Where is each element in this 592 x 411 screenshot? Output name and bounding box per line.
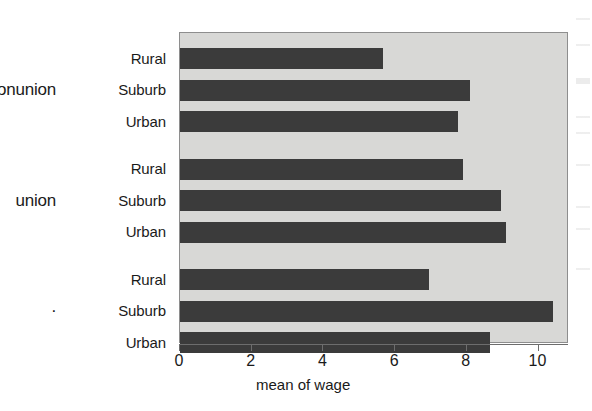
bar [180, 269, 429, 290]
bar [180, 159, 463, 180]
x-tick-mark [466, 344, 467, 351]
x-tick-mark [322, 344, 323, 351]
y-tick-label: Urban [0, 335, 174, 350]
y-axis-labels: RuralSuburbUrbannonunionRuralSuburbUrban… [0, 32, 174, 343]
y-tick-label: Urban [0, 114, 174, 129]
y-tick-label: Rural [0, 51, 174, 66]
group-label: union [15, 192, 56, 209]
x-tick-label: 6 [390, 353, 399, 369]
bar [180, 222, 506, 243]
y-tick-label: Rural [0, 272, 174, 287]
plot-panel [179, 32, 568, 343]
x-tick-label: 4 [318, 353, 327, 369]
x-tick-label: 8 [461, 353, 470, 369]
y-tick-label: Urban [0, 224, 174, 239]
x-tick-label: 0 [175, 353, 184, 369]
y-tick-label: Rural [0, 161, 174, 176]
x-tick-mark [251, 344, 252, 351]
bar [180, 80, 470, 101]
y-tick-label: Suburb [0, 303, 174, 318]
x-axis-title: mean of wage [256, 377, 350, 392]
x-tick-label: 10 [529, 353, 547, 369]
bar [180, 48, 383, 69]
x-tick-mark [394, 344, 395, 351]
bar [180, 301, 553, 322]
bar [180, 332, 490, 353]
x-axis-line [179, 344, 568, 345]
bar-chart: RuralSuburbUrbannonunionRuralSuburbUrban… [0, 0, 592, 411]
bar [180, 111, 458, 132]
x-tick-mark [179, 344, 180, 351]
bar [180, 190, 501, 211]
scan-artifact [576, 0, 590, 300]
x-tick-label: 2 [246, 353, 255, 369]
group-label: nonunion [0, 81, 56, 98]
x-tick-mark [538, 344, 539, 351]
group-label: . [51, 298, 56, 315]
